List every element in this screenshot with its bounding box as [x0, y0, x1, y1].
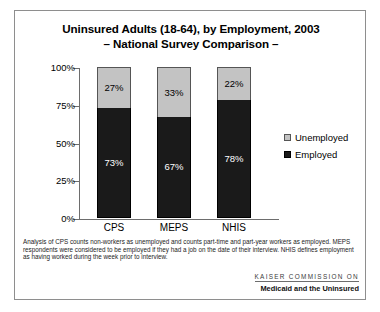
y-tick-label-75: 75%: [29, 100, 75, 111]
bar-meps-unemployed-segment[interactable]: 33%: [157, 67, 191, 117]
bar-nhis-employed-segment[interactable]: 78%: [217, 100, 251, 218]
slide-frame: Uninsured Adults (18-64), by Employment,…: [14, 10, 366, 300]
bar-cps-employed-segment[interactable]: 73%: [97, 108, 131, 218]
bar-meps[interactable]: 33% 67%: [157, 67, 191, 218]
bar-cps-unemployed-value: 27%: [104, 83, 123, 93]
legend-swatch-unemployed-icon: [284, 134, 291, 141]
x-axis-label-meps: MEPS: [144, 222, 204, 233]
y-tick-label-0: 0%: [29, 213, 75, 224]
y-tick-label-25: 25%: [29, 175, 75, 186]
legend-label-employed: Employed: [295, 149, 337, 160]
bar-cps-employed-value: 73%: [104, 158, 123, 168]
bar-cps-unemployed-segment[interactable]: 27%: [97, 67, 131, 108]
bar-nhis[interactable]: 22% 78%: [217, 67, 251, 218]
bar-nhis-unemployed-segment[interactable]: 22%: [217, 67, 251, 100]
legend-swatch-employed-icon: [284, 151, 291, 158]
x-axis-line: [79, 219, 279, 220]
bar-meps-employed-segment[interactable]: 67%: [157, 117, 191, 218]
x-axis-label-cps: CPS: [84, 222, 144, 233]
bar-nhis-employed-value: 78%: [224, 154, 243, 164]
legend-item-employed[interactable]: Employed: [284, 147, 348, 162]
x-axis-label-nhis: NHIS: [204, 222, 264, 233]
chart-legend: Unemployed Employed: [284, 130, 348, 164]
bar-nhis-unemployed-value: 22%: [224, 79, 243, 89]
chart-title-line-2: – National Survey Comparison –: [15, 36, 367, 51]
bar-meps-unemployed-value: 33%: [164, 88, 183, 98]
y-tick-label-100: 100%: [29, 62, 75, 73]
y-tick-label-50: 50%: [29, 138, 75, 149]
bar-cps[interactable]: 27% 73%: [97, 67, 131, 218]
chart-title: Uninsured Adults (18-64), by Employment,…: [15, 21, 367, 51]
y-axis-line: [79, 68, 80, 220]
source-logo: KAISER COMMISSION ON Medicaid and the Un…: [255, 265, 359, 293]
legend-label-unemployed: Unemployed: [295, 132, 348, 143]
chart-title-line-1: Uninsured Adults (18-64), by Employment,…: [15, 21, 367, 36]
legend-item-unemployed[interactable]: Unemployed: [284, 130, 348, 145]
bar-meps-employed-value: 67%: [164, 162, 183, 172]
plot-area: 100% 75% 50% 25% 0% 27% 73% CPS 33% 67%: [79, 68, 279, 219]
source-logo-line-1: KAISER COMMISSION ON: [255, 273, 359, 282]
chart-footnote: Analysis of CPS counts non-workers as un…: [23, 238, 359, 261]
source-logo-line-2: Medicaid and the Uninsured: [255, 284, 359, 293]
